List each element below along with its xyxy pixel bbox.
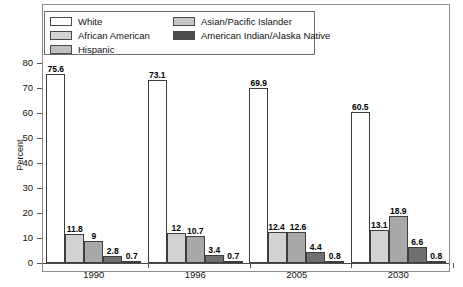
bar-2005-series-2[interactable]: 12.6	[287, 63, 306, 263]
bar-rect[interactable]: 12.6	[287, 232, 306, 264]
bar-group-bars: 73.11210.73.40.7	[148, 63, 243, 263]
bar-rect[interactable]: 4.4	[306, 252, 325, 263]
x-axis-label-2005: 2005	[246, 269, 348, 280]
y-tick-mark	[37, 263, 42, 264]
bar-1996-series-2[interactable]: 10.7	[186, 63, 205, 263]
bar-rect[interactable]: 73.1	[148, 80, 167, 263]
x-tick-mark-1996	[250, 263, 251, 268]
legend-entry-hispanic: Hispanic	[50, 43, 150, 56]
y-tick-70: 70	[0, 83, 42, 93]
y-tick-80: 80	[0, 58, 42, 68]
x-tick-mark-2030	[453, 263, 454, 268]
legend-entry-white: White	[50, 15, 150, 28]
bar-value-label: 2.8	[107, 246, 119, 256]
bar-1996-series-3[interactable]: 3.4	[205, 63, 224, 263]
bar-1996-series-0[interactable]: 73.1	[148, 63, 167, 263]
legend-label-white: White	[78, 17, 102, 27]
bar-value-label: 12	[172, 223, 181, 233]
bar-chart: White African American Hispanic Asian/Pa…	[0, 0, 463, 287]
bar-rect[interactable]: 60.5	[351, 112, 370, 263]
bar-value-label: 0.7	[227, 251, 239, 261]
y-tick-40: 40	[0, 158, 42, 168]
y-tick-label: 60	[22, 108, 33, 118]
bar-value-label: 0.8	[430, 251, 442, 261]
legend-column-right: Asian/Pacific Islander American Indian/A…	[173, 15, 330, 43]
bar-1990-series-0[interactable]: 75.6	[46, 63, 65, 263]
bar-value-label: 75.6	[47, 64, 64, 74]
bar-value-label: 11.8	[67, 224, 83, 234]
bar-1990-series-1[interactable]: 11.8	[65, 63, 84, 263]
x-tick-mark-1990	[148, 263, 149, 268]
y-tick-mark	[37, 163, 42, 164]
bar-rect[interactable]: 18.9	[389, 216, 408, 263]
bar-group-bars: 60.513.118.96.60.8	[351, 63, 446, 263]
bar-2030-series-3[interactable]: 6.6	[408, 63, 427, 263]
bar-value-label: 9	[91, 231, 96, 241]
bar-2030-series-0[interactable]: 60.5	[351, 63, 370, 263]
legend-swatch-white	[50, 17, 72, 26]
bar-1990-series-3[interactable]: 2.8	[103, 63, 122, 263]
y-tick-label: 10	[22, 233, 33, 243]
bar-1990-series-4[interactable]: 0.7	[122, 63, 141, 263]
y-tick-label: 30	[22, 183, 33, 193]
legend-swatch-hispanic	[50, 45, 72, 54]
bar-rect[interactable]: 9	[84, 241, 103, 264]
x-axis-baseline	[43, 263, 449, 264]
bar-2005-series-1[interactable]: 12.4	[268, 63, 287, 263]
bar-2005-series-4[interactable]: 0.8	[325, 63, 344, 263]
bar-value-label: 60.5	[352, 102, 369, 112]
y-tick-mark	[37, 113, 42, 114]
legend-entry-american-indian-alaska-native: American Indian/Alaska Native	[173, 29, 330, 42]
legend-label-asian-pacific-islander: Asian/Pacific Islander	[201, 17, 292, 27]
y-tick-mark	[37, 63, 42, 64]
bar-rect[interactable]: 2.8	[103, 256, 122, 263]
legend-label-hispanic: Hispanic	[78, 45, 114, 55]
bar-2005-series-0[interactable]: 69.9	[249, 63, 268, 263]
bar-rect[interactable]: 12.4	[268, 232, 287, 263]
bar-value-label: 0.8	[329, 251, 341, 261]
legend-swatch-american-indian-alaska-native	[173, 31, 195, 40]
y-tick-label: 50	[22, 133, 33, 143]
bar-value-label: 73.1	[149, 70, 166, 80]
y-tick-mark	[37, 188, 42, 189]
bar-2030-series-4[interactable]: 0.8	[427, 63, 446, 263]
bar-2030-series-2[interactable]: 18.9	[389, 63, 408, 263]
bar-rect[interactable]: 11.8	[65, 234, 84, 264]
bar-1996-series-4[interactable]: 0.7	[224, 63, 243, 263]
bar-rect[interactable]: 69.9	[249, 88, 268, 263]
bar-rect[interactable]: 3.4	[205, 255, 224, 264]
bar-value-label: 13.1	[371, 220, 388, 230]
bar-rect[interactable]: 6.6	[408, 247, 427, 264]
bar-rect[interactable]: 75.6	[46, 74, 65, 263]
bar-value-label: 6.6	[411, 237, 423, 247]
legend-entry-asian-pacific-islander: Asian/Pacific Islander	[173, 15, 330, 28]
chart-legend: White African American Hispanic Asian/Pa…	[44, 11, 315, 55]
x-axis-label-1996: 1996	[145, 269, 247, 280]
bar-rect[interactable]: 0.8	[427, 261, 446, 263]
bar-rect[interactable]: 10.7	[186, 236, 205, 263]
bar-1996-series-1[interactable]: 12	[167, 63, 186, 263]
bar-1990-series-2[interactable]: 9	[84, 63, 103, 263]
plot-area: 75.611.892.80.773.11210.73.40.769.912.41…	[43, 63, 449, 263]
y-tick-label: 0	[28, 258, 33, 268]
bar-rect[interactable]: 0.7	[122, 261, 141, 263]
bar-rect[interactable]: 0.7	[224, 261, 243, 263]
bar-value-label: 0.7	[126, 251, 138, 261]
x-axis-label-1990: 1990	[43, 269, 145, 280]
legend-column-left: White African American Hispanic	[50, 15, 150, 57]
y-tick-20: 20	[0, 208, 42, 218]
x-tick-mark-2005	[351, 263, 352, 268]
bar-2030-series-1[interactable]: 13.1	[370, 63, 389, 263]
bar-group-1996: 73.11210.73.40.7	[148, 63, 243, 263]
bar-2005-series-3[interactable]: 4.4	[306, 63, 325, 263]
y-tick-60: 60	[0, 108, 42, 118]
legend-label-american-indian-alaska-native: American Indian/Alaska Native	[201, 31, 330, 41]
bar-rect[interactable]: 13.1	[370, 230, 389, 263]
bar-rect[interactable]: 0.8	[325, 261, 344, 263]
bar-rect[interactable]: 12	[167, 233, 186, 263]
y-tick-label: 80	[22, 58, 33, 68]
y-tick-label: 20	[22, 208, 33, 218]
y-tick-label: 40	[22, 158, 33, 168]
legend-swatch-asian-pacific-islander	[173, 17, 195, 26]
legend-entry-african-american: African American	[50, 29, 150, 42]
